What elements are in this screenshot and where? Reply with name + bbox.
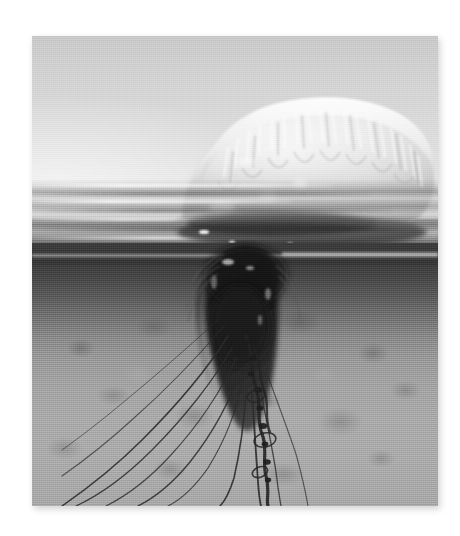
photograph (32, 36, 438, 506)
page-root (0, 0, 460, 536)
film-grain (32, 36, 438, 506)
photo-figure (32, 36, 438, 506)
